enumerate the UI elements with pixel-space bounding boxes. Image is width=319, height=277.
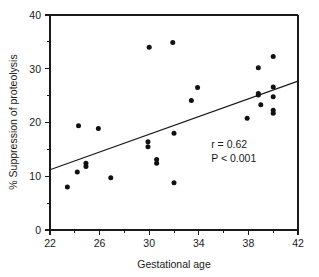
- y-tick-label: 30: [29, 63, 41, 75]
- data-point: [258, 102, 263, 107]
- y-axis-title: % Suppression of proteolysis: [7, 54, 19, 189]
- regression-line: [50, 81, 298, 170]
- x-axis-tick-labels: 222630343842: [44, 237, 304, 249]
- data-point: [271, 85, 276, 90]
- data-point: [245, 116, 250, 121]
- y-tick-label: 20: [29, 116, 41, 128]
- data-point: [271, 54, 276, 59]
- data-point: [154, 161, 159, 166]
- data-point: [83, 164, 88, 169]
- data-point: [75, 169, 80, 174]
- data-point: [65, 185, 70, 190]
- scatter-plot: 010203040 222630343842 % Suppression of …: [0, 0, 319, 277]
- data-point: [172, 131, 177, 136]
- statistics-annotations: r = 0.62P < 0.001: [211, 138, 256, 164]
- data-point: [76, 123, 81, 128]
- data-point: [145, 139, 150, 144]
- data-point: [271, 94, 276, 99]
- data-point: [195, 85, 200, 90]
- annotation-text: r = 0.62: [211, 138, 247, 150]
- annotation-text: P < 0.001: [211, 152, 256, 164]
- x-tick-label: 38: [243, 237, 255, 249]
- x-tick-label: 34: [193, 237, 205, 249]
- y-tick-label: 40: [29, 9, 41, 21]
- y-tick-label: 10: [29, 170, 41, 182]
- data-point: [189, 98, 194, 103]
- y-axis-tick-labels: 010203040: [29, 9, 41, 236]
- data-point: [108, 175, 113, 180]
- data-point: [256, 93, 261, 98]
- data-point: [271, 111, 276, 116]
- data-point: [256, 65, 261, 70]
- x-tick-label: 26: [94, 237, 106, 249]
- plot-frame: [50, 15, 298, 230]
- x-axis-title: Gestational age: [137, 258, 211, 270]
- data-point: [145, 144, 150, 149]
- data-points: [65, 40, 276, 190]
- data-point: [172, 180, 177, 185]
- data-point: [147, 45, 152, 50]
- x-tick-label: 30: [143, 237, 155, 249]
- x-tick-label: 42: [292, 237, 304, 249]
- x-axis-ticks: [50, 230, 298, 235]
- chart-page: 010203040 222630343842 % Suppression of …: [0, 0, 319, 277]
- data-point: [170, 40, 175, 45]
- data-point: [96, 126, 101, 131]
- x-tick-label: 22: [44, 237, 56, 249]
- y-tick-label: 0: [35, 224, 41, 236]
- y-axis-ticks: [45, 15, 50, 230]
